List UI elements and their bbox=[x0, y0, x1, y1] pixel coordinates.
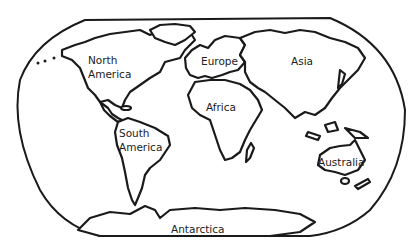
aleutian-island bbox=[37, 62, 40, 65]
label-south-america: South America bbox=[119, 126, 179, 154]
tasmania-shape bbox=[341, 178, 349, 184]
label-south-america-line2: America bbox=[119, 140, 179, 154]
label-north-america: North America bbox=[88, 53, 148, 81]
label-australia: Australia bbox=[318, 155, 364, 169]
aleutian-island bbox=[53, 57, 56, 60]
label-south-america-line1: South bbox=[119, 126, 179, 140]
caribbean-island bbox=[121, 106, 131, 110]
aleutian-island bbox=[44, 60, 47, 63]
label-africa: Africa bbox=[206, 100, 236, 114]
label-asia: Asia bbox=[291, 54, 313, 68]
world-map: North America South America Europe Afric… bbox=[0, 0, 413, 251]
borneo-shape bbox=[325, 122, 338, 132]
map-outlines bbox=[0, 0, 413, 251]
label-north-america-line2: America bbox=[88, 67, 148, 81]
label-north-america-line1: North bbox=[88, 53, 148, 67]
label-europe: Europe bbox=[201, 54, 238, 68]
label-antarctica: Antarctica bbox=[171, 222, 225, 236]
